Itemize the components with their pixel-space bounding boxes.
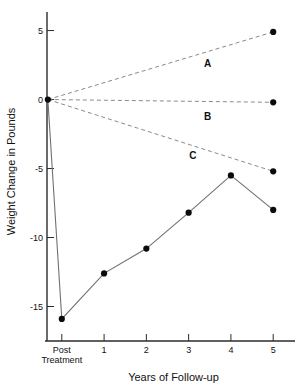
data-point-marker (228, 172, 234, 178)
x-axis-ticks: PostTreatment12345 (41, 334, 275, 365)
data-point-marker (143, 245, 149, 251)
data-point-marker (59, 316, 65, 322)
y-tick-label: 0 (38, 95, 43, 105)
weight-change-line-chart: 50-5-10-15 PostTreatment12345 ABC Years … (0, 0, 297, 392)
data-point-marker (270, 207, 276, 213)
x-tick-label: Post (53, 345, 72, 355)
y-tick-label: 5 (38, 26, 43, 36)
series-label-B: B (204, 111, 211, 122)
data-point-marker (101, 270, 107, 276)
y-tick-label: -5 (35, 164, 43, 174)
series-line-A (48, 32, 273, 100)
series-label-C: C (189, 150, 196, 161)
axes-group (45, 12, 295, 341)
data-point-marker (270, 29, 276, 35)
series-annotation-labels: ABC (189, 58, 211, 161)
x-tick-label: 1 (102, 345, 107, 355)
series-label-A: A (204, 58, 211, 69)
data-series-group (45, 29, 277, 322)
y-axis-title: Weight Change in Pounds (5, 107, 17, 235)
x-tick-label: 2 (144, 345, 149, 355)
series-line-treatment (48, 100, 273, 319)
origin-data-point-marker (45, 96, 51, 102)
x-tick-label: 4 (228, 345, 233, 355)
x-axis-title: Years of Follow-up (128, 371, 219, 383)
x-tick-label: Treatment (41, 355, 82, 365)
y-tick-label: -15 (30, 302, 43, 312)
data-point-marker (270, 99, 276, 105)
series-line-C (48, 100, 273, 172)
y-tick-label: -10 (30, 233, 43, 243)
x-tick-label: 5 (271, 345, 276, 355)
data-point-marker (270, 168, 276, 174)
chart-canvas: 50-5-10-15 PostTreatment12345 ABC Years … (0, 0, 297, 392)
y-axis-ticks: 50-5-10-15 (30, 26, 54, 312)
x-tick-label: 3 (186, 345, 191, 355)
data-point-marker (186, 210, 192, 216)
series-line-B (48, 100, 273, 103)
